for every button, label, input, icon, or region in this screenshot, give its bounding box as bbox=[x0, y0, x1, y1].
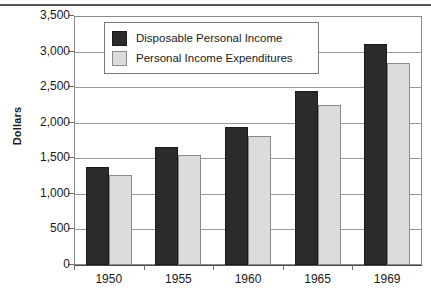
y-tick-label: 3,500 bbox=[6, 9, 70, 21]
x-tick-label: 1965 bbox=[288, 272, 348, 286]
y-tick-label: 2,000 bbox=[6, 116, 70, 128]
x-tick-label: 1969 bbox=[357, 272, 417, 286]
bar-1950-series-2 bbox=[109, 175, 132, 265]
x-tick-mark bbox=[74, 265, 75, 270]
bar-1965-series-2 bbox=[318, 105, 341, 265]
bar-1955-series-2 bbox=[178, 155, 201, 265]
legend-item-label: Disposable Personal Income bbox=[136, 32, 282, 45]
legend-item-disposable-personal-income: Disposable Personal Income bbox=[112, 28, 311, 48]
y-tick-label: 2,500 bbox=[6, 80, 70, 92]
y-tick-label: 1,500 bbox=[6, 151, 70, 163]
x-tick-mark bbox=[144, 265, 145, 270]
x-tick-label: 1950 bbox=[79, 272, 139, 286]
bar-1965-series-1 bbox=[295, 91, 318, 265]
bar-1955-series-1 bbox=[155, 147, 178, 265]
legend-item-label: Personal Income Expenditures bbox=[136, 52, 293, 65]
legend-item-personal-income-expenditures: Personal Income Expenditures bbox=[112, 48, 311, 68]
y-axis-ticks: 05001,0001,5002,0002,5003,0003,500 bbox=[0, 0, 70, 297]
y-tick-label: 0 bbox=[6, 258, 70, 270]
x-tick-mark bbox=[352, 265, 353, 270]
x-tick-label: 1960 bbox=[218, 272, 278, 286]
x-axis-baseline bbox=[74, 265, 422, 266]
light-swatch-icon bbox=[112, 51, 127, 66]
bar-1969-series-2 bbox=[387, 63, 410, 265]
bar-1960-series-2 bbox=[248, 136, 271, 265]
y-tick-label: 500 bbox=[6, 222, 70, 234]
bar-chart-figure: Dollars 05001,0001,5002,0002,5003,0003,5… bbox=[0, 0, 431, 297]
bar-1950-series-1 bbox=[86, 167, 109, 265]
y-tick-label: 3,000 bbox=[6, 45, 70, 57]
y-tick-label: 1,000 bbox=[6, 187, 70, 199]
bar-1969-series-1 bbox=[364, 44, 387, 265]
chart-legend: Disposable Personal Income Personal Inco… bbox=[104, 22, 319, 74]
x-tick-mark bbox=[213, 265, 214, 270]
dark-swatch-icon bbox=[112, 31, 127, 46]
bar-1960-series-1 bbox=[225, 127, 248, 265]
x-tick-mark bbox=[283, 265, 284, 270]
x-tick-label: 1955 bbox=[148, 272, 208, 286]
